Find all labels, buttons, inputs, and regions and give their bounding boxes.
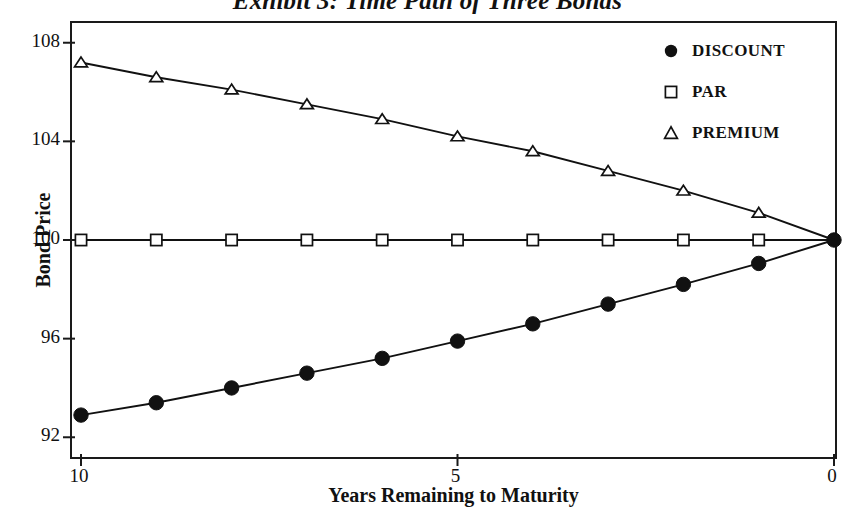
chart-legend: DISCOUNTPARPREMIUM xyxy=(663,41,785,143)
y-tick-label: 104 xyxy=(16,128,60,150)
series-discount xyxy=(74,233,841,422)
filled-circle-icon xyxy=(663,43,679,59)
data-point-marker xyxy=(527,234,538,245)
legend-label: PAR xyxy=(692,82,727,102)
legend-label: PREMIUM xyxy=(692,123,780,143)
legend-item-par[interactable]: PAR xyxy=(663,82,785,102)
y-tick-label: 96 xyxy=(16,326,60,348)
data-point-marker xyxy=(375,351,389,365)
data-point-marker xyxy=(526,317,540,331)
data-point-marker xyxy=(601,297,615,311)
data-point-marker xyxy=(752,256,766,270)
data-point-marker xyxy=(75,234,86,245)
data-point-marker xyxy=(676,277,690,291)
legend-item-discount[interactable]: DISCOUNT xyxy=(663,41,785,61)
data-point-marker xyxy=(753,234,764,245)
open-square-icon xyxy=(663,84,679,100)
y-tick-label: 100 xyxy=(16,227,60,249)
open-triangle-icon xyxy=(663,125,679,141)
data-point-marker xyxy=(151,234,162,245)
data-point-marker xyxy=(452,234,463,245)
legend-label: DISCOUNT xyxy=(692,41,785,61)
data-point-marker xyxy=(300,366,314,380)
chart-title: Exhibit 3: Time Path of Three Bonds xyxy=(0,0,855,15)
data-point-marker xyxy=(74,408,88,422)
y-tick-label: 92 xyxy=(16,424,60,446)
data-point-marker xyxy=(149,396,163,410)
data-point-marker xyxy=(450,334,464,348)
data-point-marker xyxy=(603,234,614,245)
data-point-marker xyxy=(75,57,88,67)
data-point-marker xyxy=(224,381,238,395)
x-axis-label: Years Remaining to Maturity xyxy=(70,484,837,507)
y-tick-label: 108 xyxy=(16,30,60,52)
chart-root: Exhibit 3: Time Path of Three Bonds Bond… xyxy=(0,0,855,511)
data-point-marker xyxy=(226,234,237,245)
data-point-marker xyxy=(301,234,312,245)
data-point-marker xyxy=(377,234,388,245)
data-point-marker xyxy=(678,234,689,245)
series-par xyxy=(75,234,834,245)
y-axis-tick-labels: 9296100104108 xyxy=(8,0,60,511)
legend-item-premium[interactable]: PREMIUM xyxy=(663,123,785,143)
